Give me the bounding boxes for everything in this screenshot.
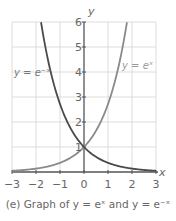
exponential-graph: −3−2−10123123456 y x y = e⁻ˣ y = eˣ <box>0 0 176 221</box>
x-tick-label: −2 <box>28 178 44 191</box>
x-tick-label: 1 <box>105 178 112 191</box>
x-tick-label: −1 <box>52 178 68 191</box>
y-tick-label: 4 <box>75 66 82 79</box>
y-tick-label: 1 <box>75 141 82 154</box>
y-axis-label: y <box>87 5 95 18</box>
figure-caption: (e) Graph of y = eˣ and y = e⁻ˣ <box>0 198 176 210</box>
x-tick-label: 3 <box>153 178 160 191</box>
x-tick-label: 2 <box>129 178 136 191</box>
y-tick-label: 6 <box>75 16 82 29</box>
y-tick-label: 3 <box>75 91 82 104</box>
y-tick-label: 5 <box>75 41 82 54</box>
curve-exp-x <box>12 22 127 171</box>
curve-exp-neg-x <box>41 22 156 171</box>
x-tick-label: −3 <box>4 178 20 191</box>
tick-labels: −3−2−10123123456 <box>4 16 160 191</box>
axes <box>12 22 158 174</box>
label-exp-x: y = eˣ <box>121 60 154 71</box>
x-tick-label: 0 <box>81 178 88 191</box>
x-axis-label: x <box>158 166 166 179</box>
y-tick-label: 2 <box>75 116 82 129</box>
label-exp-neg-x: y = e⁻ˣ <box>13 67 51 78</box>
